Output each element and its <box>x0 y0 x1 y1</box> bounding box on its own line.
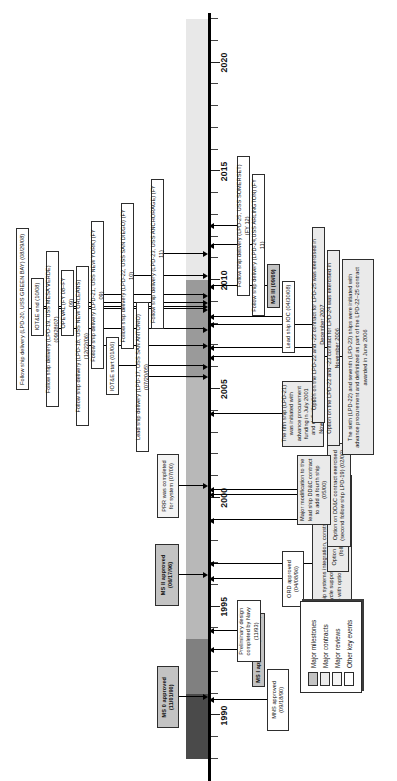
axis-tick <box>211 453 218 454</box>
connector-arrowhead <box>203 483 208 489</box>
connector-arrowhead <box>203 327 208 333</box>
event-box-follow-lpd25[interactable]: Follow ship delivery (LPD-25, USS SOMERS… <box>237 156 250 296</box>
event-label: Follow ship delivery (LPD-18, USS NEW OR… <box>75 270 90 423</box>
event-box-follow-lpd23[interactable]: Follow ship delivery (LPD-23, USS ANCHOR… <box>151 179 164 329</box>
event-box-prelim-design[interactable]: Preliminary design completed by Navy (11… <box>237 600 261 662</box>
event-box-follow-lpd21[interactable]: Follow ship delivery (LPD-21, USS NEW YO… <box>91 221 104 369</box>
legend-item-review: Major reviews <box>332 608 342 686</box>
connector-arrowhead <box>209 346 214 352</box>
event-label: Follow ship delivery (LPD-20, USS GREEN … <box>19 232 26 387</box>
connector-segment <box>212 489 297 490</box>
connector-arrowhead <box>209 355 214 361</box>
legend-label: Major reviews <box>334 629 341 668</box>
event-box-lead-ship-delivery-lpd17[interactable]: Lead ship delivery (LPD-17, USS SAN ANTO… <box>136 302 149 452</box>
legend-item-contract: Major contracts <box>320 608 330 686</box>
legend-label: Major milestones <box>310 620 317 668</box>
axis-tick <box>211 693 218 694</box>
event-box-prr-completed[interactable]: PRR was completed for system (07/00) <box>157 454 179 518</box>
connector-arrowhead <box>209 628 214 634</box>
connector-arrowhead <box>209 322 214 328</box>
axis-tick <box>211 105 218 106</box>
event-label: The sixth (LPD-22) and seventh (LPD-23) … <box>347 263 369 452</box>
connector-arrowhead <box>209 697 214 703</box>
axis-year-label: 2005 <box>219 379 229 399</box>
event-box-option-lpd25[interactable]: Option on the LPD-22 and -23 contract fo… <box>312 227 325 423</box>
axis-tick <box>211 83 218 84</box>
legend-swatch-milestone <box>308 672 318 686</box>
legend-item-other: Other key events <box>344 608 354 686</box>
legend-swatch-contract <box>320 672 330 686</box>
legend-label: Other key events <box>346 620 353 668</box>
connector-segment <box>212 347 327 348</box>
connector-segment <box>212 630 237 631</box>
axis-tick <box>211 257 218 258</box>
connector-arrowhead <box>209 492 214 498</box>
event-label: OPEVAL (FY 08–FY 09) <box>60 274 75 333</box>
event-label: Follow ship delivery (LPD-23, USS ANCHOR… <box>150 183 165 326</box>
axis-tick <box>211 584 218 585</box>
event-label: Option on the LPD-22 and -23 contract fo… <box>311 230 326 419</box>
connector-arrowhead <box>203 572 208 578</box>
phase-band-phase-dark <box>186 694 208 759</box>
connector-arrowhead <box>209 487 214 493</box>
event-label: Option on DD&C contract exercised (secon… <box>332 447 347 544</box>
event-box-lead-ship-ioc[interactable]: Lead ship IOC (04/30/08) <box>282 281 295 353</box>
event-box-mns-approved[interactable]: MNS approved (09/18/90) <box>267 669 289 731</box>
event-box-follow-lpd22[interactable]: Follow ship delivery (LPD-22, USS SAN DI… <box>121 203 134 349</box>
event-box-sixth-seventh-ships[interactable]: The sixth (LPD-22) and seventh (LPD-23) … <box>342 259 374 455</box>
connector-arrowhead <box>203 374 208 380</box>
axis-tick <box>211 432 218 433</box>
connector-arrowhead <box>203 300 208 306</box>
event-label: Option on the LPD-22 and -23 contract fo… <box>326 254 341 443</box>
event-label: MS III (09/09) <box>270 268 277 305</box>
event-box-iote-end[interactable]: IOT&E end (10/08) <box>31 278 44 336</box>
axis-tick <box>211 671 218 672</box>
event-label: Follow ship delivery (LPD-25, USS SOMERS… <box>236 159 251 292</box>
connector-segment <box>212 316 282 317</box>
connector-arrowhead <box>203 343 208 349</box>
event-box-follow-lpd19[interactable]: Follow ship delivery (LPD-19, USS MESA V… <box>46 251 59 407</box>
connector-arrowhead <box>203 273 208 279</box>
axis-year-label: 1990 <box>219 706 229 726</box>
axis-tick <box>211 758 218 759</box>
event-label: MNS approved (09/18/90) <box>271 672 286 727</box>
event-box-option-lpd24[interactable]: Option on the LPD-22 and -23 contract fo… <box>327 250 340 446</box>
event-box-opeval[interactable]: OPEVAL (FY 08–FY 09) <box>61 270 74 336</box>
connector-segment <box>179 485 204 486</box>
connector-arrowhead <box>203 293 208 299</box>
event-box-ms-2-approved[interactable]: MS II approved (06/17/96) <box>155 544 179 606</box>
connector-segment <box>212 413 282 414</box>
event-label: Lead ship IOC (04/30/08) <box>285 284 292 349</box>
connector-arrowhead <box>209 518 214 524</box>
axis-tick <box>211 475 218 476</box>
connector-segment <box>164 253 204 254</box>
event-box-major-modification[interactable]: Major modification to the lead ship DD&C… <box>297 455 331 525</box>
event-box-follow-lpd18[interactable]: Follow ship delivery (LPD-18, USS NEW OR… <box>76 266 89 426</box>
event-box-ms-3[interactable]: MS III (09/09) <box>267 265 280 309</box>
connector-segment <box>149 376 204 377</box>
connector-arrowhead <box>209 411 214 417</box>
connector-arrowhead <box>209 223 214 229</box>
connector-arrowhead <box>209 314 214 320</box>
connector-segment <box>179 696 204 697</box>
axis-tick <box>211 18 218 19</box>
connector-arrowhead <box>209 284 214 290</box>
event-label: Follow ship delivery (LPD-21, USS NEW YO… <box>90 225 105 366</box>
event-box-ord-approved[interactable]: ORD approved (04/08/96) <box>282 551 304 607</box>
event-label: ORD approved (04/08/96) <box>286 555 301 604</box>
event-box-ms-0-approved[interactable]: MS 0 approved (11/01/90) <box>157 666 179 728</box>
connector-arrowhead <box>203 364 208 370</box>
event-label: MS 0 approved (11/01/90) <box>161 670 176 725</box>
axis-tick <box>211 736 218 737</box>
connector-arrowhead <box>209 561 214 567</box>
connector-segment <box>119 365 204 366</box>
axis-line <box>208 13 211 781</box>
legend-swatch-other <box>344 672 354 686</box>
event-box-follow-lpd20[interactable]: Follow ship delivery (LPD-20, USS GREEN … <box>16 228 29 390</box>
axis-year-label: 2015 <box>219 161 229 181</box>
timeline-axis: 1990199520002005201020152020 <box>186 0 232 781</box>
event-box-follow-lpd24[interactable]: Follow ship delivery (LPD-24,USS ARLINGT… <box>252 174 265 316</box>
legend: Major milestonesMajor contractsMajor rev… <box>300 601 362 693</box>
event-box-iote-start[interactable]: IOT&E start (01/06) <box>106 337 119 395</box>
axis-tick <box>211 40 218 41</box>
